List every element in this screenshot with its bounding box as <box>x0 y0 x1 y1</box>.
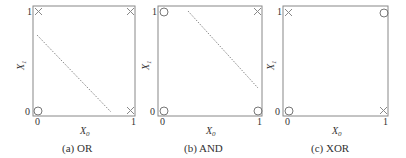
caption: (a) OR <box>62 142 93 155</box>
y-tick-0: 0 <box>275 106 280 117</box>
cross-marker <box>127 8 134 15</box>
panel-xor: 1 0 0 1 X0 X1 (c) XOR <box>265 6 388 155</box>
cross-marker <box>285 9 292 16</box>
x-tick-0: 0 <box>285 116 290 127</box>
x-axis-label: X0 <box>205 125 216 138</box>
plot-frame <box>283 6 388 116</box>
y-tick-1: 1 <box>152 6 157 17</box>
y-axis-label: X1 <box>265 60 278 71</box>
y-tick-1: 1 <box>27 6 32 17</box>
circle-marker <box>160 107 168 115</box>
x-tick-1: 1 <box>131 116 136 127</box>
caption: (b) AND <box>184 142 223 155</box>
x-tick-0: 0 <box>35 116 40 127</box>
x-tick-1: 1 <box>383 116 388 127</box>
y-tick-1: 1 <box>277 6 282 17</box>
cross-marker <box>35 8 42 15</box>
y-tick-0: 0 <box>150 106 155 117</box>
y-axis-label: X1 <box>15 60 28 71</box>
cross-marker <box>380 107 387 114</box>
decision-boundary <box>188 11 258 88</box>
x-tick-0: 0 <box>160 116 165 127</box>
x-axis-label: X0 <box>331 125 342 138</box>
x-tick-1: 1 <box>257 116 262 127</box>
circle-marker <box>34 107 42 115</box>
panel-or: 1 0 0 1 X0 X1 (a) OR <box>15 6 136 155</box>
plot-frame <box>33 6 135 116</box>
cross-marker <box>254 8 261 15</box>
decision-boundary <box>37 35 111 112</box>
plot-frame <box>158 6 262 116</box>
panel-and: 1 0 0 1 X0 X1 (b) AND <box>140 6 262 155</box>
caption: (c) XOR <box>311 142 350 155</box>
circle-marker <box>160 8 168 16</box>
circle-marker <box>254 107 262 115</box>
logic-gates-figure: 1 0 0 1 X0 X1 (a) OR 1 0 0 1 X0 X1 (b) A… <box>0 0 406 158</box>
cross-marker <box>127 107 134 114</box>
y-axis-label: X1 <box>140 60 153 71</box>
circle-marker <box>285 107 293 115</box>
x-axis-label: X0 <box>79 125 90 138</box>
y-tick-0: 0 <box>25 106 30 117</box>
circle-marker <box>380 9 388 17</box>
